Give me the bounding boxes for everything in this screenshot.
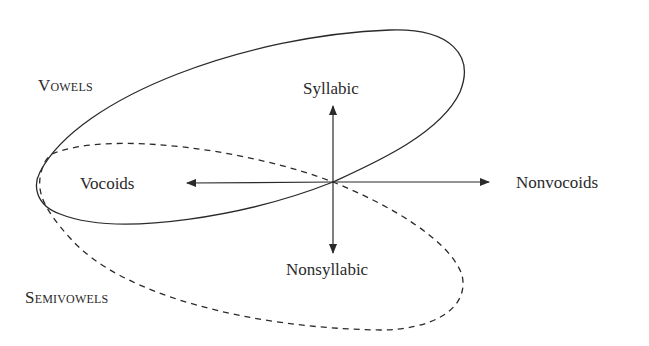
phonetic-classification-diagram: Vowels Semivowels Syllabic Nonsyllabic V…: [0, 0, 649, 346]
syllabic-label: Syllabic: [303, 80, 359, 97]
vowels-ellipse: [37, 30, 465, 224]
vocoids-label: Vocoids: [80, 175, 134, 192]
nonvocoids-label: Nonvocoids: [516, 174, 598, 191]
axis-left-arrow: [187, 182, 333, 183]
vowels-label: Vowels: [38, 77, 93, 94]
nonsyllabic-label: Nonsyllabic: [286, 261, 368, 278]
semivowels-label: Semivowels: [25, 289, 108, 306]
